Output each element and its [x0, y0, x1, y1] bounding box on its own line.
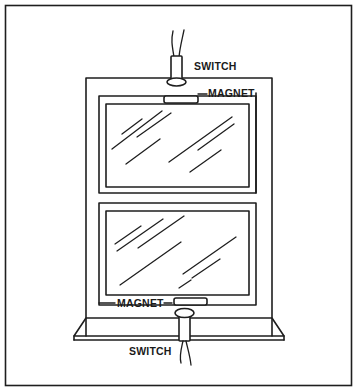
glass-reflection-lines: [112, 111, 234, 172]
top-magnet-label: MAGNET: [208, 87, 255, 99]
bottom-magnet-label: MAGNET: [117, 297, 164, 309]
upper-sash: [99, 93, 256, 193]
top-switch-label: SWITCH: [194, 60, 237, 72]
window-switch-diagram: SWITCH MAGNET MAGNET SWITCH: [0, 0, 357, 392]
lower-sash: [99, 203, 256, 305]
bottom-switch-label: SWITCH: [129, 345, 172, 357]
lower-glass-pane: [106, 211, 249, 295]
upper-glass-pane: [106, 104, 249, 187]
glass-reflection-lines: [115, 216, 236, 288]
